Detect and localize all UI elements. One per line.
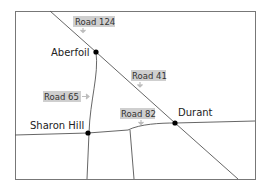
town-label-sharon-hill: Sharon Hill (30, 120, 84, 131)
town-dot-aberfoil[interactable] (93, 49, 98, 54)
road-label-82-text: Road 82 (121, 109, 156, 119)
road-label-124: Road 124 (73, 16, 115, 33)
town-dot-sharon-hill[interactable] (85, 130, 90, 135)
road-label-65-text: Road 65 (44, 92, 79, 102)
arrow-down-icon (138, 82, 143, 87)
road-label-124-text: Road 124 (75, 17, 115, 27)
road-label-82: Road 82 (120, 108, 156, 125)
town-label-aberfoil: Aberfoil (51, 47, 90, 58)
town-label-durant: Durant (178, 107, 213, 118)
town-dot-durant[interactable] (172, 120, 177, 125)
road-map: Aberfoil Sharon Hill Durant Road 124 Roa… (0, 0, 266, 191)
arrow-right-icon (82, 94, 89, 99)
road-label-41-text: Road 41 (132, 71, 167, 81)
road-label-41: Road 41 (131, 70, 167, 87)
road-secondary-south (130, 130, 134, 179)
arrow-down-icon (81, 28, 86, 33)
arrow-down-icon (139, 120, 144, 125)
road-65 (87, 52, 97, 179)
road-label-65: Road 65 (43, 91, 89, 102)
